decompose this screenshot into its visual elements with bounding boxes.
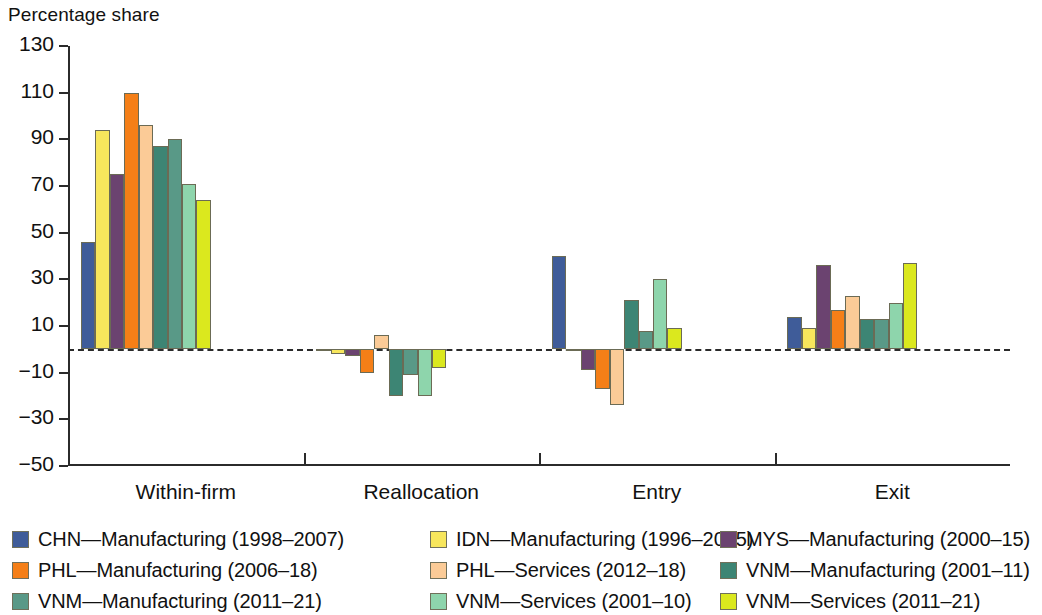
y-axis-tick — [59, 92, 68, 94]
y-axis-tick-label: 110 — [2, 79, 54, 103]
y-axis-tick-label: −10 — [2, 359, 54, 383]
y-axis-tick-label: −30 — [2, 405, 54, 429]
category-label: Within-firm — [68, 480, 304, 504]
legend-label: VNM—Manufacturing (2001–11) — [746, 559, 1030, 582]
bar — [124, 93, 138, 350]
bar — [816, 265, 830, 349]
legend-label: PHL—Manufacturing (2006–18) — [38, 559, 318, 582]
legend-swatch-icon — [720, 531, 737, 548]
bar — [624, 300, 638, 349]
bar — [316, 349, 330, 351]
plot-area: 1301109070503010−10−30−50 — [68, 46, 1010, 466]
bar — [903, 263, 917, 349]
bar — [110, 174, 124, 349]
legend-item-vnm-services-2001[interactable]: VNM—Services (2001–10) — [430, 590, 720, 613]
bar — [331, 349, 345, 354]
legend-item-vnm-manufacturing-2001[interactable]: VNM—Manufacturing (2001–11) — [720, 559, 1040, 582]
category-label: Entry — [539, 480, 775, 504]
y-axis-tick — [59, 185, 68, 187]
bar — [153, 146, 167, 349]
bar — [418, 349, 432, 396]
y-axis-tick-label: −50 — [2, 452, 54, 476]
legend-swatch-icon — [720, 593, 737, 610]
legend-label: PHL—Services (2012–18) — [456, 559, 686, 582]
bar — [831, 310, 845, 350]
chart-legend: CHN—Manufacturing (1998–2007)IDN—Manufac… — [12, 524, 1042, 615]
bar — [168, 139, 182, 349]
bar — [889, 303, 903, 350]
bar — [182, 184, 196, 350]
y-axis-tick — [59, 418, 68, 420]
legend-swatch-icon — [430, 531, 447, 548]
y-axis-line — [68, 46, 70, 466]
bar — [610, 349, 624, 405]
bar — [595, 349, 609, 389]
bar — [566, 349, 580, 351]
legend-label: MYS—Manufacturing (2000–15) — [746, 528, 1030, 551]
y-axis-tick — [59, 45, 68, 47]
legend-item-phl-services[interactable]: PHL—Services (2012–18) — [430, 559, 720, 582]
legend-label: CHN—Manufacturing (1998–2007) — [38, 528, 344, 551]
legend-item-vnm-services-2011[interactable]: VNM—Services (2011–21) — [720, 590, 1040, 613]
y-axis-tick-label: 130 — [2, 32, 54, 56]
legend-swatch-icon — [430, 593, 447, 610]
category-label: Reallocation — [304, 480, 540, 504]
bar — [639, 331, 653, 350]
legend-item-phl-manufacturing[interactable]: PHL—Manufacturing (2006–18) — [12, 559, 430, 582]
bar — [552, 256, 566, 349]
bar — [360, 349, 374, 372]
bar — [802, 328, 816, 349]
legend-item-mys-manufacturing[interactable]: MYS—Manufacturing (2000–15) — [720, 528, 1040, 551]
bar — [196, 200, 210, 349]
legend-label: IDN—Manufacturing (1996–2015) — [456, 528, 753, 551]
y-axis-tick — [59, 278, 68, 280]
zero-baseline — [68, 349, 1010, 351]
legend-label: VNM—Services (2001–10) — [456, 590, 692, 613]
legend-label: VNM—Manufacturing (2011–21) — [38, 590, 322, 613]
category-separator — [775, 453, 777, 466]
y-axis-tick-label: 50 — [2, 219, 54, 243]
legend-swatch-icon — [720, 562, 737, 579]
y-axis-tick — [59, 325, 68, 327]
category-separator — [304, 453, 306, 466]
category-separator — [539, 453, 541, 466]
legend-item-chn-manufacturing[interactable]: CHN—Manufacturing (1998–2007) — [12, 528, 430, 551]
legend-item-idn-manufacturing[interactable]: IDN—Manufacturing (1996–2015) — [430, 528, 720, 551]
y-axis-tick — [59, 232, 68, 234]
legend-item-vnm-manufacturing-2011[interactable]: VNM—Manufacturing (2011–21) — [12, 590, 430, 613]
y-axis-tick-label: 10 — [2, 312, 54, 336]
bar — [653, 279, 667, 349]
bar — [389, 349, 403, 396]
legend-swatch-icon — [12, 562, 29, 579]
y-axis-tick-label: 70 — [2, 172, 54, 196]
bar — [667, 328, 681, 349]
legend-label: VNM—Services (2011–21) — [746, 590, 980, 613]
y-axis-tick-label: 30 — [2, 265, 54, 289]
legend-swatch-icon — [430, 562, 447, 579]
bar — [432, 349, 446, 368]
bar — [81, 242, 95, 349]
bar — [860, 319, 874, 349]
legend-swatch-icon — [12, 593, 29, 610]
bar — [345, 349, 359, 356]
y-axis-tick — [59, 372, 68, 374]
legend-swatch-icon — [12, 531, 29, 548]
bar — [374, 335, 388, 349]
y-axis-tick — [59, 138, 68, 140]
bar — [95, 130, 109, 349]
bar — [581, 349, 595, 370]
bar — [787, 317, 801, 350]
bar — [139, 125, 153, 349]
chart-figure: Percentage share 1301109070503010−10−30−… — [0, 0, 1042, 615]
y-axis-tick — [59, 465, 68, 467]
category-label: Exit — [775, 480, 1011, 504]
bar — [403, 349, 417, 375]
bar — [845, 296, 859, 350]
axis-title: Percentage share — [8, 4, 160, 26]
bar — [874, 319, 888, 349]
y-axis-tick-label: 90 — [2, 125, 54, 149]
